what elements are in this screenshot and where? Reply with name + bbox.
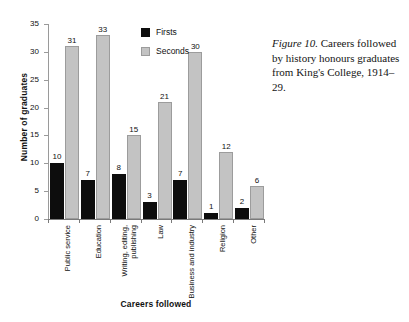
bar-value-label: 7 bbox=[178, 169, 182, 178]
y-axis-tick-label: 30 bbox=[30, 47, 39, 56]
category-label-line: Public service bbox=[63, 225, 72, 271]
bar-group: 733 bbox=[81, 24, 110, 219]
bar-value-label: 7 bbox=[86, 169, 90, 178]
y-axis-tick-label: 20 bbox=[30, 103, 39, 112]
legend-item-seconds[interactable]: Seconds bbox=[141, 46, 189, 56]
x-axis-tick bbox=[110, 219, 111, 223]
y-axis-line bbox=[48, 24, 49, 219]
bar-value-label: 10 bbox=[52, 152, 61, 161]
category-label-line: Education bbox=[94, 225, 103, 258]
x-axis-category-label: Writing, editing,publishing bbox=[121, 225, 138, 277]
y-axis-tick-label: 0 bbox=[35, 214, 39, 223]
bar-firsts[interactable]: 3 bbox=[143, 202, 157, 219]
bar-seconds[interactable]: 33 bbox=[96, 35, 110, 219]
bar-value-label: 6 bbox=[255, 176, 259, 185]
x-axis-line bbox=[48, 219, 264, 220]
x-axis-tick bbox=[79, 219, 80, 223]
category-label-line: Business and industry bbox=[187, 225, 196, 298]
y-axis-tick: 10 bbox=[44, 163, 49, 164]
x-axis-title: Careers followed bbox=[48, 299, 264, 309]
bar-firsts[interactable]: 8 bbox=[112, 174, 126, 219]
bar-value-label: 31 bbox=[67, 36, 76, 45]
legend-label: Seconds bbox=[156, 46, 189, 56]
legend-item-firsts[interactable]: Firsts bbox=[141, 27, 189, 37]
bar-seconds[interactable]: 15 bbox=[127, 135, 141, 219]
y-axis-tick-label: 10 bbox=[30, 158, 39, 167]
x-axis-tick bbox=[202, 219, 203, 223]
figure-caption: Figure 10. Careers followed by history h… bbox=[272, 36, 404, 94]
x-axis-category-label: Education bbox=[95, 225, 104, 258]
bar-seconds[interactable]: 21 bbox=[158, 102, 172, 219]
bar-group: 815 bbox=[112, 24, 141, 219]
bar-value-label: 33 bbox=[98, 25, 107, 34]
y-axis-tick-label: 15 bbox=[30, 130, 39, 139]
bar-value-label: 21 bbox=[160, 92, 169, 101]
category-label-line: publishing bbox=[130, 225, 139, 277]
bar-group: 26 bbox=[235, 24, 264, 219]
x-axis-category-label: Other bbox=[250, 225, 259, 244]
bar-seconds[interactable]: 30 bbox=[188, 52, 202, 219]
bar-firsts[interactable]: 1 bbox=[204, 213, 218, 219]
y-axis-tick: 5 bbox=[44, 191, 49, 192]
legend-label: Firsts bbox=[156, 27, 177, 37]
y-axis-tick-label: 25 bbox=[30, 75, 39, 84]
y-axis-title: Number of graduates bbox=[19, 52, 29, 182]
bar-seconds[interactable]: 6 bbox=[250, 186, 264, 219]
category-label-line: Writing, editing, bbox=[120, 225, 129, 277]
bar-value-label: 30 bbox=[191, 42, 200, 51]
x-axis-tick bbox=[233, 219, 234, 223]
bar-firsts[interactable]: 7 bbox=[81, 180, 95, 219]
x-axis-category-label: Law bbox=[157, 225, 166, 239]
y-axis-tick: 35 bbox=[44, 24, 49, 25]
bar-value-label: 3 bbox=[147, 191, 151, 200]
y-axis-tick: 15 bbox=[44, 135, 49, 136]
bar-value-label: 1 bbox=[209, 202, 213, 211]
y-axis-tick-label: 5 bbox=[35, 186, 39, 195]
bar-group: 1031 bbox=[50, 24, 79, 219]
bar-firsts[interactable]: 7 bbox=[173, 180, 187, 219]
y-axis-tick-label: 35 bbox=[30, 19, 39, 28]
bar-firsts[interactable]: 10 bbox=[50, 163, 64, 219]
x-axis-tick bbox=[141, 219, 142, 223]
bar-seconds[interactable]: 31 bbox=[65, 46, 79, 219]
bar-seconds[interactable]: 12 bbox=[219, 152, 233, 219]
x-axis-category-label: Religion bbox=[219, 225, 228, 252]
bar-value-label: 2 bbox=[240, 197, 244, 206]
chart-legend: FirstsSeconds bbox=[141, 27, 189, 65]
bar-value-label: 12 bbox=[222, 142, 231, 151]
x-axis-tick bbox=[48, 219, 49, 223]
category-label-line: Law bbox=[156, 225, 165, 239]
x-axis-tick bbox=[264, 219, 265, 223]
x-axis-category-label: Business and industry bbox=[188, 225, 197, 298]
figure-number: Figure 10. bbox=[272, 37, 318, 49]
y-axis-tick: 20 bbox=[44, 108, 49, 109]
bar-group: 112 bbox=[204, 24, 233, 219]
category-label-line: Other bbox=[249, 225, 258, 244]
bar-chart: Number of graduates Careers followed 051… bbox=[0, 0, 272, 322]
bar-firsts[interactable]: 2 bbox=[235, 208, 249, 219]
y-axis-tick: 30 bbox=[44, 52, 49, 53]
y-axis-tick: 25 bbox=[44, 80, 49, 81]
bar-value-label: 15 bbox=[129, 125, 138, 134]
bar-value-label: 8 bbox=[116, 163, 120, 172]
firsts-swatch bbox=[141, 28, 150, 37]
seconds-swatch bbox=[141, 47, 150, 56]
x-axis-tick bbox=[171, 219, 172, 223]
category-label-line: Religion bbox=[218, 225, 227, 252]
x-axis-category-label: Public service bbox=[64, 225, 73, 271]
